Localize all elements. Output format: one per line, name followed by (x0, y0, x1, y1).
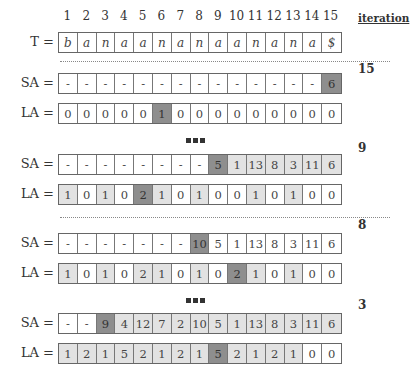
column-index: 15 (321, 9, 340, 23)
array-cell: b (59, 33, 78, 52)
array-cell: 0 (209, 185, 228, 204)
array-cell: - (115, 234, 134, 253)
array-cell: 1 (59, 264, 78, 283)
array-cell: 0 (322, 185, 341, 204)
array-cell: 0 (322, 344, 341, 363)
array-cell: 1 (153, 185, 172, 204)
dotted-separator (60, 217, 390, 218)
array-cell: - (97, 234, 116, 253)
array-cell: 1 (247, 264, 266, 283)
array-cell: 0 (115, 185, 134, 204)
array-cell: 0 (266, 264, 285, 283)
array-cell: - (172, 234, 191, 253)
ellipsis-icon (186, 298, 205, 303)
array-cell: 1 (285, 185, 304, 204)
array-cell: - (134, 74, 153, 93)
array-cell: - (134, 155, 153, 174)
array-cell: - (78, 314, 97, 333)
array-cell: - (153, 234, 172, 253)
array-cell: 0 (303, 104, 322, 123)
array-cell: - (285, 74, 304, 93)
array-cell: 8 (266, 314, 285, 333)
suffix-array-row: --94127210511383116 (58, 313, 342, 334)
iteration-number: 3 (358, 298, 366, 312)
array-cell: 1 (228, 234, 247, 253)
array-cell: 0 (209, 104, 228, 123)
column-index: 13 (284, 9, 303, 23)
array-cell: 1 (59, 344, 78, 363)
suffix-array-row: -------10511383116 (58, 233, 342, 254)
array-cell: 3 (285, 314, 304, 333)
array-cell: 1 (247, 344, 266, 363)
array-cell: 10 (191, 234, 210, 253)
lcp-array-row: 101021010010100 (58, 184, 342, 205)
array-cell: 1 (191, 185, 210, 204)
array-cell: a (228, 33, 247, 52)
la-row-label: LA = (0, 105, 54, 120)
column-index: 1 (58, 9, 77, 23)
array-cell: n (247, 33, 266, 52)
array-cell: - (59, 234, 78, 253)
array-cell: - (97, 155, 116, 174)
array-cell: 8 (266, 234, 285, 253)
array-cell: - (59, 314, 78, 333)
array-cell: 0 (303, 185, 322, 204)
array-cell: 9 (97, 314, 116, 333)
array-cell: - (97, 74, 116, 93)
array-cell: 2 (134, 264, 153, 283)
dotted-separator (60, 61, 390, 62)
array-cell: 3 (285, 155, 304, 174)
array-cell: 0 (247, 104, 266, 123)
array-cell: 11 (303, 155, 322, 174)
array-cell: 2 (228, 264, 247, 283)
array-cell: a (78, 33, 97, 52)
array-cell: 0 (172, 185, 191, 204)
array-cell: - (153, 74, 172, 93)
array-cell: 0 (172, 104, 191, 123)
array-cell: 8 (266, 155, 285, 174)
array-cell: - (59, 155, 78, 174)
array-cell: - (228, 74, 247, 93)
array-cell: 6 (322, 314, 341, 333)
array-cell: $ (322, 33, 341, 52)
array-cell: a (303, 33, 322, 52)
array-cell: 2 (78, 344, 97, 363)
array-cell: 1 (153, 264, 172, 283)
array-cell: 0 (322, 104, 341, 123)
array-cell: - (247, 74, 266, 93)
array-cell: 0 (322, 264, 341, 283)
array-cell: 0 (303, 264, 322, 283)
array-cell: - (78, 234, 97, 253)
array-cell: 5 (115, 344, 134, 363)
array-cell: 0 (209, 264, 228, 283)
array-cell: 5 (209, 314, 228, 333)
array-cell: 0 (59, 104, 78, 123)
array-cell: 1 (228, 155, 247, 174)
array-cell: n (191, 33, 210, 52)
array-cell: - (115, 155, 134, 174)
array-cell: 1 (285, 264, 304, 283)
array-cell: 0 (228, 185, 247, 204)
array-cell: 1 (97, 344, 116, 363)
column-index: 8 (190, 9, 209, 23)
array-cell: 2 (134, 344, 153, 363)
array-cell: a (209, 33, 228, 52)
array-cell: 3 (285, 234, 304, 253)
array-cell: a (115, 33, 134, 52)
array-cell: 1 (228, 314, 247, 333)
lcp-array-row: 121521215212100 (58, 343, 342, 364)
array-cell: - (209, 74, 228, 93)
array-cell: 12 (134, 314, 153, 333)
array-cell: 5 (209, 234, 228, 253)
array-cell: 1 (153, 344, 172, 363)
array-cell: 7 (153, 314, 172, 333)
array-cell: a (172, 33, 191, 52)
array-cell: 5 (209, 155, 228, 174)
array-cell: - (59, 74, 78, 93)
lcp-array-row: 101021010210100 (58, 263, 342, 284)
array-cell: - (172, 74, 191, 93)
text-array: banaananaanana$ (58, 32, 342, 53)
array-cell: 11 (303, 314, 322, 333)
array-cell: 0 (97, 104, 116, 123)
array-cell: 6 (322, 234, 341, 253)
